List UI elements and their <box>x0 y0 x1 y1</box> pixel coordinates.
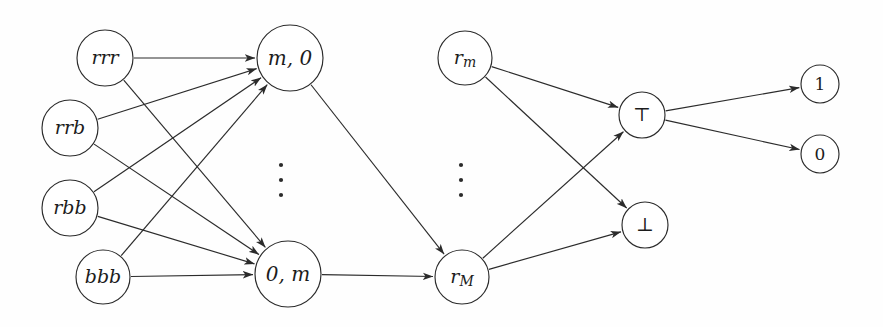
ellipsis-layer-2-dot-3 <box>279 193 283 197</box>
ellipsis-layer-3-dot-1 <box>459 163 463 167</box>
nodes-layer: rrrrrbrbbbbbm, 00, mrmrM⊤⊥10 <box>42 25 839 307</box>
node-bbb[interactable]: bbb <box>76 250 130 304</box>
node-0m-label: 0, m <box>266 262 310 286</box>
edge-0m-to-rM <box>322 275 433 277</box>
node-rrr[interactable]: rrr <box>77 30 133 86</box>
edge-rrb-to-0m <box>94 144 259 254</box>
node-zero-label: 0 <box>815 144 826 164</box>
node-m0[interactable]: m, 0 <box>257 25 323 91</box>
node-bot-label: ⊥ <box>636 213 654 235</box>
node-0m[interactable]: 0, m <box>255 241 321 307</box>
edge-m0-to-rM <box>311 85 444 254</box>
edge-rm-to-bot <box>486 77 627 208</box>
ellipsis-layer-3-dot-2 <box>459 178 463 182</box>
edge-rM-to-bot <box>489 232 621 270</box>
node-zero[interactable]: 0 <box>801 135 839 173</box>
edge-rM-to-top <box>483 132 624 259</box>
edges-layer <box>94 58 800 277</box>
node-rrb-label: rrb <box>55 116 85 138</box>
node-rM[interactable]: rM <box>435 250 489 304</box>
node-rrb[interactable]: rrb <box>42 100 98 156</box>
edge-rm-to-top <box>492 67 619 108</box>
node-one-label: 1 <box>815 74 826 94</box>
ellipsis-layer-2-dot-1 <box>279 163 283 167</box>
node-rbb[interactable]: rbb <box>42 180 98 236</box>
edge-bbb-to-m0 <box>121 85 267 256</box>
node-rbb-label: rbb <box>53 196 86 218</box>
node-top-label: ⊤ <box>633 103 651 125</box>
ellipses-layer <box>279 163 463 197</box>
edge-rrr-to-0m <box>124 80 266 247</box>
node-one[interactable]: 1 <box>801 65 839 103</box>
node-m0-label: m, 0 <box>268 46 313 70</box>
node-top[interactable]: ⊤ <box>619 92 665 138</box>
graph-canvas: rrrrrbrbbbbbm, 00, mrmrM⊤⊥10 <box>0 0 883 327</box>
ellipsis-layer-2-dot-2 <box>279 178 283 182</box>
edge-top-to-zero <box>665 120 799 149</box>
node-rrr-label: rrr <box>91 46 120 68</box>
node-rm[interactable]: rm <box>438 31 492 85</box>
node-bbb-label: bbb <box>85 265 122 287</box>
edge-rbb-to-m0 <box>94 78 261 192</box>
edge-bbb-to-0m <box>131 275 253 277</box>
ellipsis-layer-3-dot-3 <box>459 193 463 197</box>
edge-top-to-one <box>666 88 800 111</box>
diagram-root: rrrrrbrbbbbbm, 00, mrmrM⊤⊥10 <box>0 0 883 327</box>
node-bot[interactable]: ⊥ <box>622 202 668 248</box>
